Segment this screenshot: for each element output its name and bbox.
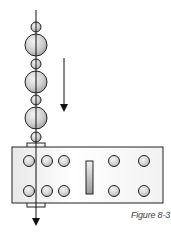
hole [24,156,35,167]
hole [59,156,70,167]
arrow-down-icon [60,104,68,112]
hole [42,156,53,167]
figure-caption: Figure 8-3 [118,210,170,220]
hole [59,186,70,197]
center-slot [86,161,93,194]
hole [109,156,120,167]
thread-arrowhead-icon [32,218,40,226]
hole [24,186,35,197]
hole [139,156,150,167]
figure-diagram [0,0,171,241]
hole [109,186,120,197]
hole [42,186,53,197]
hole [139,186,150,197]
